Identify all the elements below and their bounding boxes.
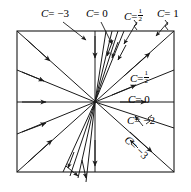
arrow-left-upper (22, 72, 44, 81)
ray-upper-cluster-4 (95, 31, 106, 102)
arrow-lower-cluster-3 (82, 160, 86, 178)
ray-lower-cluster-1 (78, 102, 95, 178)
leader-c-1 (156, 22, 168, 36)
label-c-1: C= 1 (157, 8, 179, 19)
arrow-diagonal-sw (28, 140, 52, 162)
label-c-1-value: = 1 (164, 7, 178, 19)
label-c-half-right: C=12 (130, 70, 149, 84)
label-c-0-right-value: = 0 (135, 93, 149, 105)
fraction-one-half-top: 12 (138, 8, 144, 22)
arrow-upper-cluster-2 (118, 45, 126, 60)
fraction-denominator: 2 (138, 16, 144, 23)
leader-c-0-top (101, 22, 112, 44)
fraction-one-half-right: 12 (144, 70, 150, 84)
label-c-0-top: C= 0 (86, 8, 108, 19)
arrow-left-lower (22, 123, 46, 132)
label-c-minus-3-value: = −3 (48, 7, 69, 19)
arrow-diagonal-nw (26, 39, 50, 61)
arrow-upper-cluster-1 (112, 42, 118, 58)
label-c-minus-2: C= −2 (127, 115, 155, 126)
label-c-minus-2-value: = −2 (134, 114, 155, 126)
arrow-lower-cluster-2 (66, 166, 78, 176)
fraction-denominator: 2 (144, 78, 150, 85)
direction-field-figure: C= −3 C= 0 C=12 C= 1 C=12 C= 0 C= −2 C= … (0, 0, 191, 192)
label-c-minus-3: C= −3 (41, 8, 69, 19)
label-c-0-right: C= 0 (128, 94, 150, 105)
label-c-0-top-value: = 0 (93, 7, 107, 19)
ray-lower-cluster-3 (63, 102, 95, 172)
figure-canvas (0, 0, 191, 192)
label-c-half-top: C=12 (124, 8, 143, 22)
